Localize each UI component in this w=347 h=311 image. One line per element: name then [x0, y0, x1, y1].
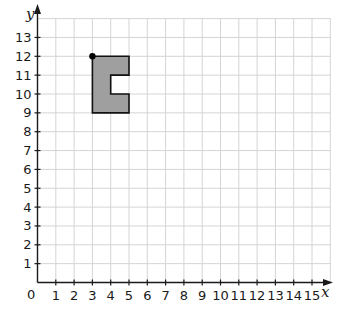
y-tick-label: 5 — [23, 181, 31, 196]
x-tick-label: 2 — [70, 288, 78, 303]
x-tick-label: 8 — [180, 288, 188, 303]
x-tick-label: 11 — [231, 288, 248, 303]
x-tick-label: 13 — [267, 288, 284, 303]
x-tick-label: 3 — [88, 288, 96, 303]
origin-label: 0 — [27, 287, 35, 302]
y-tick-label: 12 — [15, 49, 32, 64]
y-tick-label: 10 — [15, 87, 32, 102]
grid-lines — [38, 19, 331, 283]
y-tick-label: 8 — [23, 124, 31, 139]
coordinate-grid-diagram: 123456789101112131415 12345678910111213 … — [0, 0, 347, 311]
marked-point-dot — [89, 53, 95, 59]
x-tick-label: 15 — [304, 288, 321, 303]
y-axis-label: y — [25, 5, 35, 23]
x-tick-label: 4 — [107, 288, 115, 303]
x-tick-label: 14 — [285, 288, 302, 303]
x-tick-label: 7 — [161, 288, 169, 303]
c-shape-polygon — [92, 56, 129, 113]
x-tick-label: 10 — [212, 288, 229, 303]
shape-layer — [89, 53, 129, 113]
y-tick-label: 2 — [23, 237, 31, 252]
x-axis-label: x — [321, 283, 330, 301]
x-tick-label: 9 — [198, 288, 206, 303]
y-tick-label: 13 — [15, 30, 32, 45]
y-tick-label: 11 — [15, 68, 32, 83]
x-tick-label: 5 — [125, 288, 133, 303]
x-tick-label: 12 — [249, 288, 266, 303]
x-tick-label: 1 — [52, 288, 60, 303]
y-tick-label: 1 — [23, 256, 31, 271]
y-tick-label: 7 — [23, 143, 31, 158]
y-tick-label: 6 — [23, 162, 31, 177]
y-axis-arrow-icon — [34, 4, 41, 14]
x-tick-label: 6 — [143, 288, 151, 303]
y-axis-ticks: 12345678910111213 — [15, 30, 41, 271]
y-tick-label: 3 — [23, 218, 31, 233]
y-tick-label: 4 — [23, 200, 31, 215]
y-tick-label: 9 — [23, 105, 31, 120]
